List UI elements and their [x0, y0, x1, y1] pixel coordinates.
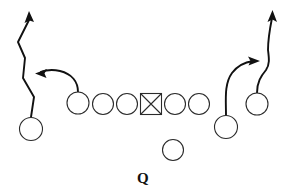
route-left-tight-end-drag — [41, 70, 78, 92]
play-diagram: Q — [0, 0, 286, 192]
route-right-slot-receiver-go — [257, 18, 272, 93]
labels-layer: Q — [137, 170, 149, 186]
player-right-wide-receiver[interactable] — [215, 116, 238, 139]
arrowhead-left-tight-end-drag — [35, 69, 47, 78]
player-right-slot-receiver[interactable] — [246, 93, 268, 115]
play-diagram-canvas: Q — [0, 0, 286, 192]
players-layer — [20, 92, 269, 161]
player-quarterback[interactable] — [163, 140, 184, 161]
qb-position-label: Q — [137, 170, 149, 186]
route-left-wide-receiver — [18, 18, 34, 117]
player-left-tackle[interactable] — [93, 94, 114, 115]
player-right-tackle[interactable] — [189, 94, 210, 115]
player-left-wide-receiver[interactable] — [20, 118, 43, 141]
player-right-guard[interactable] — [165, 94, 186, 115]
player-left-tight-end[interactable] — [67, 92, 89, 114]
player-left-guard[interactable] — [117, 94, 138, 115]
